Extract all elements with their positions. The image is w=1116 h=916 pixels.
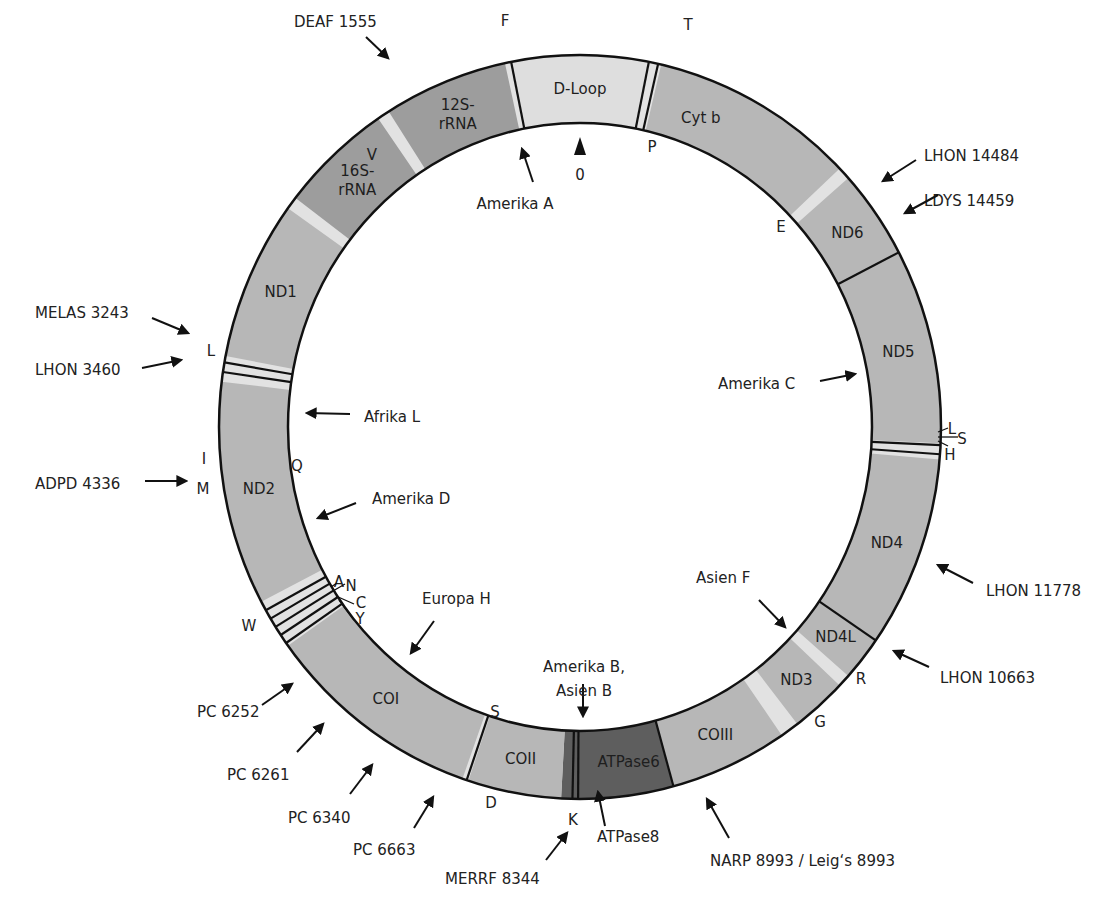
arrow-icon [707,799,729,838]
gene-label-cyt-b: Cyt b [681,109,721,127]
annotation-text: Europa H [422,590,491,608]
arrow-icon [318,503,356,518]
trna-label-f: F [501,12,510,30]
annotation-text: Amerika B, [543,658,625,676]
annotation-text: NARP 8993 / Leig‘s 8993 [710,852,895,870]
mtdna-ring-diagram: D-LoopCyt bND6ND5ND4ND4LND3COIIIATPase6C… [0,0,1116,916]
trna-label-m: M [197,480,210,498]
annotation-narp-8993-leig-s-8993: NARP 8993 / Leig‘s 8993 [707,799,895,870]
gene-label-nd2: ND2 [243,480,275,498]
arrow-icon [820,374,855,381]
arrow-icon [411,621,434,653]
trna-label-v: V [367,146,378,164]
gene-label-nd4l: ND4L [815,628,856,646]
annotation-lhon-3460: LHON 3460 [35,360,181,379]
trna-label-l: L [207,342,216,360]
annotation-text: PC 6261 [227,766,289,784]
annotation-deaf-1555: DEAF 1555 [294,13,388,58]
origin-triangle-icon [574,137,586,155]
annotation-merrf-8344: MERRF 8344 [445,833,567,888]
annotation-text: LHON 10663 [940,669,1035,687]
trna-label-y: Y [354,610,365,628]
gene-label-d-loop: D-Loop [554,80,607,98]
annotation-pc-6252: PC 6252 [197,684,292,721]
annotation-europa-h: Europa H [411,590,491,653]
annotation-lhon-14484: LHON 14484 [883,147,1019,181]
annotation-text: Amerika C [718,375,795,393]
arrow-icon [546,833,567,860]
gene-label-nd5: ND5 [882,343,914,361]
annotation-afrika-l: Afrika L [307,408,421,426]
gene-label-nd6: ND6 [831,224,863,242]
annotation-text: Asien F [696,569,750,587]
annotation-pc-6663: PC 6663 [353,797,433,859]
annotation-text: LHON 11778 [986,582,1081,600]
annotation-asien-b: Asien B [556,682,612,700]
annotation-atpase8: ATPase8 [597,792,659,846]
trna-label-e: E [776,218,785,236]
gene-label-16s-rrna: 16S-rRNA [338,162,377,199]
annotation-text: Amerika D [372,490,450,508]
annotation-text: Afrika L [364,408,421,426]
gene-label-atpase6: ATPase6 [597,753,659,771]
gene-label-coiii: COIII [698,726,734,744]
arrow-icon [883,160,916,181]
gene-label-nd4: ND4 [871,534,903,552]
annotation-text: Amerika A [476,195,554,213]
gene-label-coi: COI [372,690,399,708]
gene-label-coii: COII [505,750,536,768]
trna-labels: FTPVELLSHIQMANCYWRGSDK [197,12,967,829]
annotation-text: LHON 3460 [35,361,121,379]
trna-label-a: A [334,573,345,591]
annotation-text: DEAF 1555 [294,13,377,31]
trna-label-d: D [485,794,497,812]
annotation-amerika-d: Amerika D [318,490,450,518]
trna-label-h: H [944,446,955,464]
arrow-icon [938,565,973,583]
divider-line [572,731,573,799]
annotation-text: PC 6252 [197,703,259,721]
annotation-amerika-c: Amerika C [718,374,855,393]
trna-label-k: K [568,811,579,829]
annotation-lhon-11778: LHON 11778 [938,565,1081,600]
annotation-asien-f: Asien F [696,569,785,627]
arrow-icon [894,651,929,667]
trna-label-q: Q [291,457,303,475]
ring-inner-edge [288,123,872,731]
trna-label-r: R [856,670,866,688]
trna-label-l: L [948,420,957,438]
annotation-text: LHON 14484 [924,147,1019,165]
gene-label-12s-rrna: 12S-rRNA [439,96,478,133]
annotation-pc-6340: PC 6340 [288,765,372,827]
arrow-icon [297,724,323,752]
annotation-text: PC 6340 [288,809,350,827]
arrow-icon [522,149,533,182]
gene-label-nd1: ND1 [264,283,296,301]
annotation-amerika-a: Amerika A [476,149,554,213]
trna-label-w: W [242,617,257,635]
arrow-icon [350,765,372,794]
annotation-text: PC 6663 [353,841,415,859]
arrow-icon [759,600,785,627]
annotation-text: MERRF 8344 [445,870,540,888]
annotation-text: ADPD 4336 [35,475,120,493]
annotation-text: MELAS 3243 [35,304,129,322]
arrow-icon [142,360,181,368]
arrow-icon [366,37,388,58]
annotation-lhon-10663: LHON 10663 [894,651,1035,687]
trna-label-i: I [202,450,206,468]
origin-marker: 0 [574,137,586,184]
origin-label: 0 [575,166,585,184]
trna-label-g: G [814,713,826,731]
annotation-pc-6261: PC 6261 [227,724,323,784]
arrow-icon [152,318,188,333]
gene-label-nd3: ND3 [780,671,812,689]
trna-label-s: S [490,703,500,721]
arrow-icon [307,413,350,414]
trna-label-n: N [345,577,356,595]
annotation-text: Asien B [556,682,612,700]
annotation-ldys-14459: LDYS 14459 [905,192,1014,213]
arrow-icon [414,797,433,828]
annotation-text: ATPase8 [597,828,659,846]
annotation-adpd-4336: ADPD 4336 [35,475,186,493]
